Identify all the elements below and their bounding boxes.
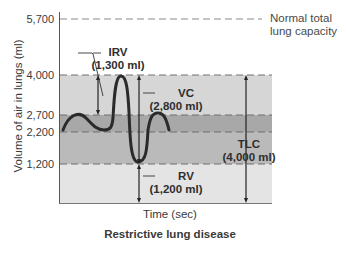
tick-5700: 5,700 [10, 13, 54, 25]
irv-label: IRV (1,300 ml) [88, 46, 148, 72]
tlc-name: TLC [218, 138, 280, 151]
tlc-value: (4,000 ml) [218, 151, 280, 164]
vc-value: (2,800 ml) [142, 100, 210, 113]
tlc-label: TLC (4,000 ml) [218, 138, 280, 164]
normal-tlc-label-line2: lung capacity [270, 25, 337, 38]
rv-name: RV [142, 170, 210, 183]
vc-label: VC (2,800 ml) [142, 87, 210, 113]
figure-caption: Restrictive lung disease [80, 228, 260, 240]
normal-tlc-label: Normal total lung capacity [270, 12, 337, 38]
y-axis-label: Volume of air in lungs (ml) [12, 36, 24, 176]
rv-value: (1,200 ml) [142, 183, 210, 196]
vc-name: VC [142, 87, 210, 100]
normal-tlc-label-line1: Normal total [270, 12, 337, 25]
rv-label: RV (1,200 ml) [142, 170, 210, 196]
x-axis-label: Time (sec) [120, 208, 220, 220]
irv-name: IRV [88, 46, 148, 59]
irv-value: (1,300 ml) [88, 59, 148, 72]
